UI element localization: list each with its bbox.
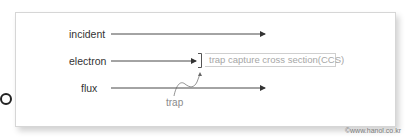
bracket: [198, 54, 202, 68]
trap-squiggle: [174, 74, 200, 96]
trap-label: trap: [166, 97, 183, 109]
diagram-arrows: [0, 0, 407, 137]
credit-text: ©www.hanol.co.kr: [345, 126, 401, 136]
ccs-label: trap capture cross section(CCS): [209, 54, 344, 66]
